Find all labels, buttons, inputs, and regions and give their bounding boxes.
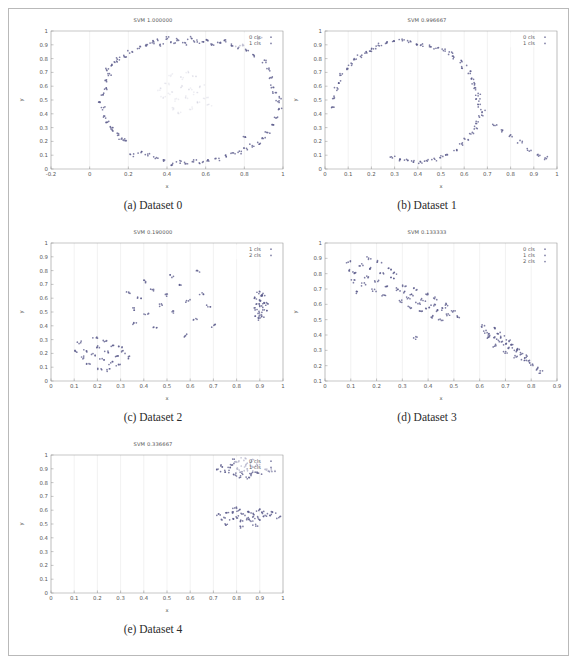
svg-text:0.1: 0.1 <box>39 364 48 370</box>
svg-text:0.8: 0.8 <box>232 595 241 601</box>
svg-text:0.5: 0.5 <box>450 383 459 389</box>
svg-text:0.2: 0.2 <box>372 383 381 389</box>
svg-text:1: 1 <box>319 240 322 246</box>
svg-text:y: y <box>18 310 25 313</box>
svg-text:0 cls: 0 cls <box>523 246 535 252</box>
svg-text:x: x <box>165 395 168 401</box>
svg-text:0.5: 0.5 <box>39 309 48 315</box>
svg-text:0.9: 0.9 <box>39 254 48 260</box>
svg-text:0: 0 <box>49 595 53 601</box>
svg-text:0: 0 <box>88 171 92 177</box>
svg-text:0.4: 0.4 <box>163 171 172 177</box>
svg-text:0.6: 0.6 <box>39 507 48 513</box>
svg-text:0.4: 0.4 <box>140 595 149 601</box>
svg-text:x: x <box>439 395 442 401</box>
series-0-cls <box>157 70 212 114</box>
panel-dataset-1: SVM 0.996667 00.10.20.30.40.50.60.70.80.… <box>291 17 563 225</box>
svg-text:0.2: 0.2 <box>39 562 48 568</box>
svg-text:0.3: 0.3 <box>39 337 48 343</box>
svg-text:0.3: 0.3 <box>398 383 407 389</box>
series-2-cls <box>481 324 544 374</box>
panel-title-dataset-3: SVM 0.133333 <box>291 229 563 235</box>
svg-text:0: 0 <box>45 590 49 596</box>
svg-text:0.7: 0.7 <box>313 69 322 75</box>
svg-text:0: 0 <box>323 383 327 389</box>
svg-text:0.8: 0.8 <box>232 383 241 389</box>
svg-text:0.5: 0.5 <box>163 383 172 389</box>
svg-text:2 cls: 2 cls <box>249 252 261 258</box>
series-1-cls <box>74 336 130 372</box>
legend: 0 cls1 cls2 cls <box>509 245 553 266</box>
svg-text:1: 1 <box>281 383 284 389</box>
svg-text:0.9: 0.9 <box>553 383 562 389</box>
svg-text:0.6: 0.6 <box>186 595 195 601</box>
figure-grid: SVM 1.000000 -0.200.20.40.60.8100.10.20.… <box>9 9 568 655</box>
svg-text:0.1: 0.1 <box>70 595 79 601</box>
panel-title-dataset-2: SVM 0.190000 <box>17 229 289 235</box>
svg-text:0.9: 0.9 <box>313 255 322 261</box>
svg-text:0.9: 0.9 <box>313 42 322 48</box>
svg-text:0.8: 0.8 <box>39 268 48 274</box>
panel-title-dataset-4: SVM 0.336667 <box>17 441 289 447</box>
svg-text:0.6: 0.6 <box>313 83 322 89</box>
svg-text:0.4: 0.4 <box>140 383 149 389</box>
scatter-plot-dataset-2: 00.10.20.30.40.50.60.70.80.9100.10.20.30… <box>17 237 289 403</box>
panel-dataset-4: SVM 0.336667 00.10.20.30.40.50.60.70.80.… <box>17 441 289 649</box>
svg-text:0.2: 0.2 <box>367 171 376 177</box>
svg-text:0.4: 0.4 <box>39 535 48 541</box>
svg-text:1: 1 <box>45 240 48 246</box>
svg-text:0.1: 0.1 <box>346 383 355 389</box>
svg-text:0.7: 0.7 <box>501 383 510 389</box>
legend: 0 cls1 cls <box>509 33 553 47</box>
svg-text:0.5: 0.5 <box>313 317 322 323</box>
svg-text:1: 1 <box>45 452 48 458</box>
svg-text:0.3: 0.3 <box>313 125 322 131</box>
svg-text:0.6: 0.6 <box>460 171 469 177</box>
scatter-plot-dataset-3: 00.10.20.30.40.50.60.70.80.90.10.20.30.4… <box>291 237 563 403</box>
plot-dataset-0: -0.200.20.40.60.8100.10.20.30.40.50.60.7… <box>17 25 289 191</box>
svg-text:1 cls: 1 cls <box>523 40 535 46</box>
svg-text:y: y <box>292 98 299 101</box>
svg-text:x: x <box>165 183 168 189</box>
svg-text:0.7: 0.7 <box>39 281 48 287</box>
svg-text:1 cls: 1 cls <box>249 40 261 46</box>
legend: 0 cls1 cls <box>235 33 279 47</box>
svg-text:0.6: 0.6 <box>475 383 484 389</box>
svg-text:0: 0 <box>49 383 53 389</box>
svg-text:0.5: 0.5 <box>163 595 172 601</box>
svg-text:0.2: 0.2 <box>93 595 102 601</box>
series-1-cls <box>399 284 461 340</box>
caption-dataset-4: (e) Dataset 4 <box>17 623 289 635</box>
svg-text:0.4: 0.4 <box>414 171 423 177</box>
panel-title-dataset-1: SVM 0.996667 <box>291 17 563 23</box>
svg-text:0.8: 0.8 <box>240 171 249 177</box>
plot-dataset-2: 00.10.20.30.40.50.60.70.80.9100.10.20.30… <box>17 237 289 403</box>
caption-dataset-0: (a) Dataset 0 <box>17 199 289 211</box>
legend: 0 cls1 cls <box>235 457 279 471</box>
svg-text:0.9: 0.9 <box>256 383 265 389</box>
svg-text:0.6: 0.6 <box>186 383 195 389</box>
svg-text:0.3: 0.3 <box>390 171 399 177</box>
plot-dataset-3: 00.10.20.30.40.50.60.70.80.90.10.20.30.4… <box>291 237 563 403</box>
svg-text:y: y <box>292 310 299 313</box>
panel-dataset-0: SVM 1.000000 -0.200.20.40.60.8100.10.20.… <box>17 17 289 225</box>
series-1-cls <box>216 506 281 529</box>
svg-text:1 cls: 1 cls <box>249 246 261 252</box>
svg-text:0: 0 <box>45 378 49 384</box>
svg-text:0.1: 0.1 <box>39 576 48 582</box>
svg-text:0.6: 0.6 <box>39 83 48 89</box>
svg-text:0.5: 0.5 <box>39 521 48 527</box>
series-0-cls <box>346 256 399 297</box>
svg-text:0.5: 0.5 <box>437 171 446 177</box>
svg-text:2 cls: 2 cls <box>523 258 535 264</box>
svg-text:0.4: 0.4 <box>313 332 322 338</box>
panel-title-dataset-0: SVM 1.000000 <box>17 17 289 23</box>
svg-text:1: 1 <box>319 28 322 34</box>
svg-text:0.7: 0.7 <box>39 69 48 75</box>
panel-dataset-2: SVM 0.190000 00.10.20.30.40.50.60.70.80.… <box>17 229 289 437</box>
svg-text:1: 1 <box>555 171 558 177</box>
svg-text:0 cls: 0 cls <box>249 458 261 464</box>
svg-text:0.4: 0.4 <box>39 323 48 329</box>
svg-text:x: x <box>165 607 168 613</box>
svg-text:0.7: 0.7 <box>39 493 48 499</box>
